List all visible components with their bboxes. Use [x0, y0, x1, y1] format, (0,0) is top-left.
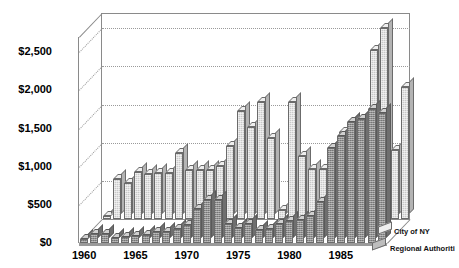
bar-regional-authority: [265, 229, 273, 243]
x-axis-tick-label: 1965: [115, 249, 155, 261]
bar-face: [306, 216, 314, 243]
bar-side: [409, 77, 414, 214]
bar-face: [173, 229, 181, 243]
y-axis-tick-label: $1,000: [18, 161, 52, 172]
bar-face: [152, 232, 160, 243]
bar-face: [183, 225, 191, 243]
bar-face: [391, 150, 399, 219]
y-axis-tick-label: $1,500: [18, 123, 52, 134]
bar-regional-authority: [234, 228, 242, 243]
bar-face: [103, 216, 111, 219]
bar-city-of-ny: [226, 146, 234, 219]
bar-face: [257, 102, 265, 219]
bar-side: [275, 128, 280, 214]
frame-top-left-diag: [79, 13, 103, 38]
bar-city-of-ny: [401, 87, 409, 219]
bar-regional-authority: [275, 224, 283, 243]
x-axis-tick-label: 1985: [321, 249, 361, 261]
bar-city-of-ny: [175, 153, 183, 219]
bar-side: [386, 103, 391, 238]
bar-city-of-ny: [298, 156, 306, 219]
gridline: [102, 28, 410, 29]
bar-regional-authority: [131, 236, 139, 243]
y-axis-tick-label: $2,500: [18, 46, 52, 57]
y-axis-tick-label: $2,000: [18, 84, 52, 95]
bar-face: [368, 109, 376, 243]
bar-regional-authority: [224, 224, 232, 243]
bar-city-of-ny: [154, 173, 162, 219]
frame-back-left: [101, 13, 102, 219]
gridline-depth: [79, 143, 103, 168]
bar-regional-authority: [90, 234, 98, 243]
bar-face: [193, 209, 201, 243]
bar-city-of-ny: [124, 183, 132, 219]
bar-face: [237, 111, 245, 219]
bar-face: [298, 156, 306, 219]
bar-face: [101, 234, 109, 243]
bar-regional-authority: [183, 225, 191, 243]
bar-face: [214, 200, 222, 243]
bar-regional-authority: [162, 232, 170, 243]
bar-city-of-ny: [288, 102, 296, 219]
bar-face: [224, 224, 232, 243]
bar-face: [288, 102, 296, 219]
bar-face: [144, 174, 152, 219]
x-axis-tick-label: 1970: [167, 249, 207, 261]
bar-regional-authority: [285, 221, 293, 243]
bar-city-of-ny: [165, 173, 173, 219]
gridline: [102, 105, 410, 106]
bar-regional-authority: [327, 148, 335, 243]
bar-face: [165, 173, 173, 219]
bar-regional-authority: [347, 122, 355, 243]
y-axis-tick-label: $500: [28, 199, 52, 210]
gridline-depth: [79, 105, 103, 130]
bar-face: [142, 235, 150, 243]
legend-label-city-of-ny: City of NY: [394, 228, 430, 236]
bar-regional-authority: [306, 216, 314, 243]
bar-chart-3d: $0$500$1,000$1,500$2,000$2,500 196019651…: [0, 0, 459, 268]
bar-city-of-ny: [267, 138, 275, 219]
bar-regional-authority: [244, 224, 252, 243]
bar-regional-authority: [203, 200, 211, 243]
bar-face: [327, 148, 335, 243]
bar-face: [247, 127, 255, 219]
x-axis-tick-label: 1975: [218, 249, 258, 261]
bar-face: [124, 183, 132, 219]
bar-regional-authority: [101, 234, 109, 243]
bar-face: [347, 122, 355, 243]
bar-face: [296, 220, 304, 243]
bar-regional-authority: [142, 235, 150, 243]
bar-face: [255, 230, 263, 243]
floor-front: [79, 243, 387, 246]
bar-face: [275, 224, 283, 243]
bar-face: [401, 87, 409, 219]
bar-city-of-ny: [257, 102, 265, 219]
bar-regional-authority: [173, 229, 181, 243]
bar-city-of-ny: [144, 174, 152, 219]
bar-face: [175, 153, 183, 219]
frame-front-left: [78, 37, 79, 243]
bar-face: [337, 136, 345, 243]
bar-face: [134, 172, 142, 219]
bar-city-of-ny: [247, 127, 255, 219]
x-axis-tick-label: 1960: [64, 249, 104, 261]
bar-face: [265, 229, 273, 243]
bar-city-of-ny: [185, 170, 193, 219]
legend-label-regional-authority: Regional Authoriti: [390, 245, 455, 253]
gridline-depth: [79, 66, 103, 91]
bar-face: [234, 228, 242, 243]
bar-city-of-ny: [237, 111, 245, 219]
y-axis-tick-label: $0: [40, 237, 52, 248]
bar-regional-authority: [337, 136, 345, 243]
bar-regional-authority: [357, 119, 365, 243]
x-axis-tick-label: 1980: [269, 249, 309, 261]
bar-city-of-ny: [113, 179, 121, 219]
frame-back-top: [102, 13, 410, 14]
gridline-depth: [79, 181, 103, 206]
bar-regional-authority: [296, 220, 304, 243]
bar-regional-authority: [214, 200, 222, 243]
bar-regional-authority: [368, 109, 376, 243]
bar-city-of-ny: [134, 172, 142, 219]
bar-city-of-ny: [103, 216, 111, 219]
gridline: [102, 66, 410, 67]
